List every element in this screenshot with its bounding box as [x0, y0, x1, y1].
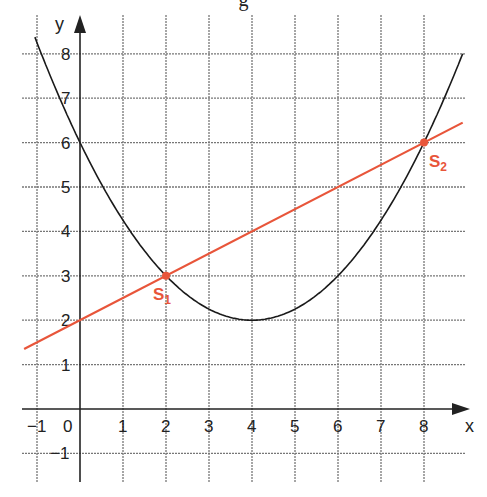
intersection-points: S1S2	[153, 139, 447, 307]
y-tick-label: 4	[61, 222, 70, 241]
x-axis-label: x	[465, 416, 474, 436]
y-axis-label: y	[55, 14, 64, 34]
axes	[22, 15, 470, 482]
x-tick-label: 4	[247, 417, 256, 436]
curves	[24, 37, 463, 349]
parabola-curve	[35, 37, 463, 320]
x-tick-label: 6	[333, 417, 342, 436]
y-axis-arrow-icon	[74, 15, 86, 33]
x-tick-label: 1	[118, 417, 127, 436]
y-tick-label: 5	[61, 178, 70, 197]
y-tick-label: 1	[61, 356, 70, 375]
point-label: S1	[153, 285, 171, 307]
x-tick-label: 5	[290, 417, 299, 436]
red-line	[24, 123, 463, 349]
point-label: S2	[429, 152, 447, 174]
x-tick-label: 8	[419, 417, 428, 436]
grid-lines	[22, 15, 465, 482]
y-tick-label: 8	[61, 45, 70, 64]
y-tick-label: −1	[50, 444, 69, 463]
y-tick-label: 3	[61, 267, 70, 286]
coordinate-chart: xy−1012345678−112345678 S1S2	[0, 0, 487, 497]
x-tick-label: 2	[161, 417, 170, 436]
x-tick-label: 3	[204, 417, 213, 436]
intersection-point	[162, 272, 170, 280]
x-axis-arrow-icon	[452, 403, 470, 415]
intersection-point	[420, 139, 428, 147]
tick-labels: xy−1012345678−112345678	[27, 14, 474, 463]
x-tick-label: 7	[376, 417, 385, 436]
y-tick-label: 6	[61, 134, 70, 153]
x-tick-label: −1	[27, 417, 46, 436]
x-tick-label: 0	[63, 417, 72, 436]
